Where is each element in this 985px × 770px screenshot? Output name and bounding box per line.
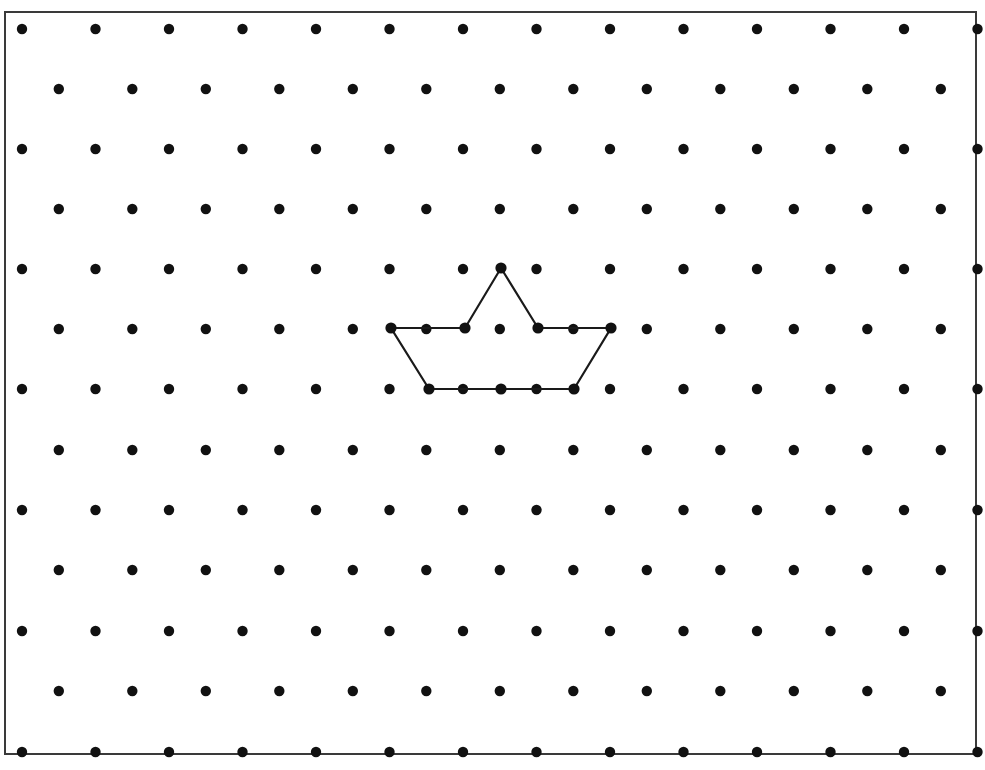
peg-dot[interactable] — [936, 445, 946, 455]
peg-dot[interactable] — [164, 384, 174, 394]
peg-dot[interactable] — [605, 24, 615, 34]
peg-dot[interactable] — [495, 84, 505, 94]
peg-dot[interactable] — [384, 264, 394, 274]
peg-dot[interactable] — [201, 686, 211, 696]
peg-dot[interactable] — [90, 144, 100, 154]
peg-dot[interactable] — [789, 204, 799, 214]
peg-dot[interactable] — [936, 324, 946, 334]
peg-dot[interactable] — [531, 626, 541, 636]
peg-dot[interactable] — [752, 747, 762, 757]
peg-dot[interactable] — [752, 264, 762, 274]
peg-dot[interactable] — [237, 144, 247, 154]
peg-dot[interactable] — [899, 264, 909, 274]
peg-dot[interactable] — [348, 204, 358, 214]
peg-dot[interactable] — [715, 565, 725, 575]
peg-dot[interactable] — [311, 144, 321, 154]
peg-dot[interactable] — [458, 24, 468, 34]
peg-dot[interactable] — [54, 445, 64, 455]
peg-dot[interactable] — [972, 747, 982, 757]
peg-dot[interactable] — [17, 626, 27, 636]
peg-dot[interactable] — [531, 144, 541, 154]
peg-dot[interactable] — [899, 384, 909, 394]
peg-dot[interactable] — [605, 144, 615, 154]
peg-dot[interactable] — [825, 626, 835, 636]
peg-dot[interactable] — [568, 445, 578, 455]
peg-dot[interactable] — [421, 84, 431, 94]
peg-dot[interactable] — [164, 626, 174, 636]
peg-dot[interactable] — [642, 204, 652, 214]
peg-dot[interactable] — [90, 747, 100, 757]
peg-dot[interactable] — [936, 204, 946, 214]
peg-dot[interactable] — [90, 505, 100, 515]
peg-dot[interactable] — [384, 384, 394, 394]
peg-dot[interactable] — [789, 445, 799, 455]
polygon-edge-point-hull-bottom-middle[interactable] — [495, 383, 506, 394]
peg-dot[interactable] — [384, 24, 394, 34]
peg-dot[interactable] — [642, 686, 652, 696]
peg-dot[interactable] — [311, 505, 321, 515]
polygon-vertex-right-mast-base[interactable] — [532, 322, 543, 333]
peg-dot[interactable] — [825, 747, 835, 757]
peg-dot[interactable] — [752, 384, 762, 394]
peg-dot[interactable] — [936, 84, 946, 94]
peg-dot[interactable] — [17, 384, 27, 394]
peg-dot[interactable] — [678, 626, 688, 636]
peg-dot[interactable] — [642, 324, 652, 334]
peg-dot[interactable] — [789, 84, 799, 94]
polygon-vertex-left-mast-base[interactable] — [459, 322, 470, 333]
peg-dot[interactable] — [348, 84, 358, 94]
peg-dot[interactable] — [127, 565, 137, 575]
peg-dot[interactable] — [17, 144, 27, 154]
peg-dot[interactable] — [54, 204, 64, 214]
peg-dot[interactable] — [237, 626, 247, 636]
peg-dot[interactable] — [421, 445, 431, 455]
peg-dot[interactable] — [715, 84, 725, 94]
peg-dot[interactable] — [274, 565, 284, 575]
peg-dot[interactable] — [605, 264, 615, 274]
peg-dot[interactable] — [752, 144, 762, 154]
peg-dot[interactable] — [568, 204, 578, 214]
polygon-vertex-left-gunwale[interactable] — [385, 322, 396, 333]
peg-dot[interactable] — [899, 24, 909, 34]
peg-dot[interactable] — [237, 505, 247, 515]
peg-dot[interactable] — [348, 445, 358, 455]
peg-dot[interactable] — [531, 264, 541, 274]
peg-dot[interactable] — [605, 747, 615, 757]
peg-dot[interactable] — [348, 324, 358, 334]
peg-dot[interactable] — [825, 144, 835, 154]
peg-dot[interactable] — [568, 84, 578, 94]
peg-dot[interactable] — [54, 84, 64, 94]
peg-dot[interactable] — [789, 565, 799, 575]
peg-dot[interactable] — [201, 445, 211, 455]
peg-dot[interactable] — [568, 686, 578, 696]
peg-dot[interactable] — [605, 384, 615, 394]
peg-dot[interactable] — [752, 24, 762, 34]
peg-dot[interactable] — [862, 84, 872, 94]
polygon-vertex-hull-bottom-right[interactable] — [568, 383, 579, 394]
peg-dot[interactable] — [201, 204, 211, 214]
peg-dot[interactable] — [495, 445, 505, 455]
peg-dot[interactable] — [531, 747, 541, 757]
peg-dot[interactable] — [274, 445, 284, 455]
peg-dot[interactable] — [862, 565, 872, 575]
peg-dot[interactable] — [936, 686, 946, 696]
polygon-vertex-mast-peak[interactable] — [495, 262, 506, 273]
peg-dot[interactable] — [862, 204, 872, 214]
peg-dot[interactable] — [458, 505, 468, 515]
peg-dot[interactable] — [825, 505, 835, 515]
peg-dot[interactable] — [642, 565, 652, 575]
peg-dot[interactable] — [237, 384, 247, 394]
peg-dot[interactable] — [642, 445, 652, 455]
peg-dot[interactable] — [274, 84, 284, 94]
peg-dot[interactable] — [421, 204, 431, 214]
peg-dot[interactable] — [715, 686, 725, 696]
peg-dot[interactable] — [127, 445, 137, 455]
peg-dot[interactable] — [164, 505, 174, 515]
peg-dot[interactable] — [384, 144, 394, 154]
peg-dot[interactable] — [972, 626, 982, 636]
peg-dot[interactable] — [531, 24, 541, 34]
peg-dot[interactable] — [384, 626, 394, 636]
peg-dot[interactable] — [90, 626, 100, 636]
peg-dot[interactable] — [127, 204, 137, 214]
peg-dot[interactable] — [495, 686, 505, 696]
